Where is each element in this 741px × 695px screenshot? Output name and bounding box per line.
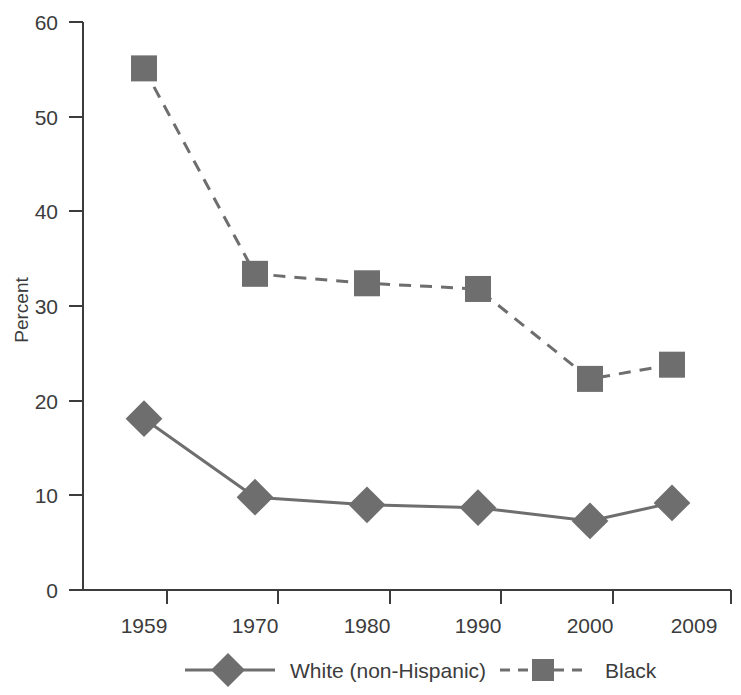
diamond-marker-icon xyxy=(572,503,609,540)
y-tick-label: 40 xyxy=(35,200,58,223)
y-tick-label: 0 xyxy=(46,579,58,602)
x-axis-tick-labels: 1959 1970 1980 1990 2000 2009 xyxy=(121,614,718,637)
x-tick-label: 2009 xyxy=(671,614,718,637)
legend-entry-black[interactable]: Black xyxy=(500,659,657,682)
diamond-marker-icon xyxy=(654,485,691,522)
y-tick-label: 60 xyxy=(35,11,58,34)
line-chart: 60 50 40 30 20 10 0 Percent 1959 1970 19… xyxy=(0,0,741,695)
x-tick-label: 2000 xyxy=(567,614,614,637)
x-tick-label: 1980 xyxy=(344,614,391,637)
series-white xyxy=(126,400,691,539)
y-axis-title: Percent xyxy=(11,277,32,343)
x-tick-label: 1990 xyxy=(455,614,502,637)
square-marker-icon xyxy=(659,352,685,378)
square-marker-icon xyxy=(242,261,268,287)
diamond-marker-icon xyxy=(126,400,163,437)
x-tick-label: 1970 xyxy=(232,614,279,637)
diamond-marker-icon xyxy=(237,479,274,516)
y-tick-label: 20 xyxy=(35,390,58,413)
square-marker-icon xyxy=(532,659,554,681)
y-axis-ticks xyxy=(69,22,83,590)
y-tick-label: 50 xyxy=(35,106,58,129)
chart-container: 60 50 40 30 20 10 0 Percent 1959 1970 19… xyxy=(0,0,741,695)
diamond-marker-icon xyxy=(211,653,245,687)
square-marker-icon xyxy=(131,55,157,81)
legend-label-black: Black xyxy=(605,659,657,682)
y-axis-tick-labels: 60 50 40 30 20 10 0 xyxy=(35,11,58,602)
diamond-marker-icon xyxy=(460,489,497,526)
series-black xyxy=(131,55,685,392)
diamond-marker-icon xyxy=(349,486,386,523)
y-tick-label: 30 xyxy=(35,295,58,318)
chart-legend: White (non-Hispanic) Black xyxy=(185,653,657,687)
data-series-layer xyxy=(126,55,691,539)
square-marker-icon xyxy=(577,366,603,392)
square-marker-icon xyxy=(465,276,491,302)
series-line xyxy=(144,68,672,379)
y-tick-label: 10 xyxy=(35,484,58,507)
x-axis-ticks xyxy=(167,590,731,604)
legend-label-white: White (non-Hispanic) xyxy=(290,659,486,682)
legend-entry-white[interactable]: White (non-Hispanic) xyxy=(185,653,486,687)
x-tick-label: 1959 xyxy=(121,614,168,637)
square-marker-icon xyxy=(354,270,380,296)
